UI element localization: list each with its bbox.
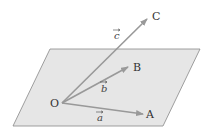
diagram-svg: O A B C a b c bbox=[0, 0, 213, 138]
point-b-label: B bbox=[133, 61, 141, 74]
origin-label: O bbox=[50, 97, 59, 110]
svg-text:a: a bbox=[97, 112, 103, 123]
vector-c-label: c bbox=[113, 29, 120, 41]
vector-diagram: O A B C a b c bbox=[0, 0, 213, 138]
svg-text:c: c bbox=[114, 30, 120, 41]
vector-a-label: a bbox=[96, 111, 103, 123]
svg-text:b: b bbox=[101, 83, 107, 94]
point-c-label: C bbox=[152, 10, 160, 23]
vector-b-label: b bbox=[100, 81, 107, 94]
point-a-label: A bbox=[145, 108, 155, 121]
